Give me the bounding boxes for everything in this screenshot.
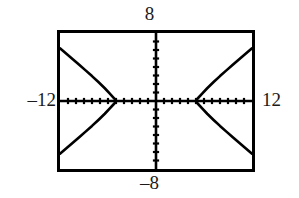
y-min-label: –8	[0, 173, 299, 192]
curve-hyperbola-left-lower	[60, 101, 116, 154]
axes-group	[60, 33, 252, 169]
curve-hyperbola-right-upper	[196, 48, 252, 101]
curve-hyperbola-right-lower	[196, 101, 252, 154]
x-min-label: –12	[8, 90, 56, 109]
graphing-calculator-screen: 8 –12 12 –8	[0, 0, 299, 198]
hyperbola-plot	[60, 33, 252, 169]
curve-hyperbola-left-upper	[60, 48, 116, 101]
x-max-label: 12	[262, 90, 299, 109]
plot-frame	[57, 30, 255, 172]
y-max-label: 8	[0, 4, 299, 23]
